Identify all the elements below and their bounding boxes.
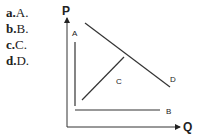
curve-d (85, 23, 170, 87)
curve-d-label: D (170, 75, 176, 84)
y-axis-label: P (62, 4, 70, 18)
supply-demand-diagram: P Q A B C D (0, 0, 206, 140)
curve-c-label: C (116, 77, 122, 86)
curve-a-label: A (72, 29, 78, 38)
curve-b-label: B (166, 107, 171, 116)
x-axis-label: Q (183, 120, 192, 134)
